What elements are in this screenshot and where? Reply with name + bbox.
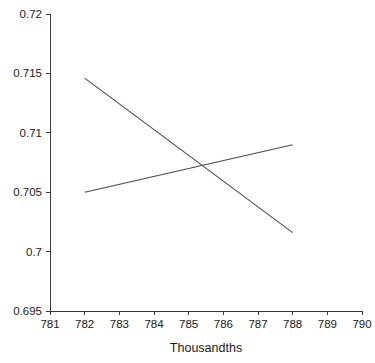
chart-container: 0.6950.70.7050.710.7150.72 7817827837847… (0, 0, 375, 363)
y-tick-label: 0.72 (20, 8, 42, 20)
x-tick-label: 789 (318, 318, 337, 330)
x-tick-label: 782 (75, 318, 94, 330)
y-tick-label: 0.715 (13, 67, 42, 79)
x-tick-label: 781 (40, 318, 59, 330)
x-tick-label: 790 (352, 318, 371, 330)
x-tick-label: 786 (214, 318, 233, 330)
x-axis-title: Thousandths (170, 341, 242, 355)
x-tick-label: 788 (283, 318, 302, 330)
y-tick-label: 0.7 (26, 246, 42, 258)
y-tick-label: 0.695 (13, 305, 42, 317)
line-chart: 0.6950.70.7050.710.7150.72 7817827837847… (0, 0, 375, 363)
chart-background (0, 0, 375, 363)
x-tick-label: 783 (110, 318, 129, 330)
x-tick-label: 784 (144, 318, 164, 330)
y-tick-label: 0.705 (13, 186, 42, 198)
x-tick-label: 787 (248, 318, 267, 330)
x-tick-label: 785 (179, 318, 198, 330)
y-tick-label: 0.71 (20, 127, 42, 139)
